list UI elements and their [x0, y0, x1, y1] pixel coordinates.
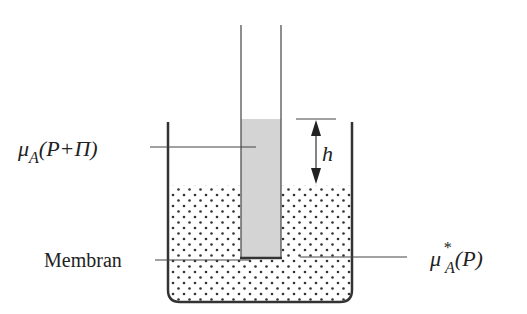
membrane-label: Membran — [44, 249, 122, 271]
arrow-down-icon — [311, 168, 321, 184]
inner-potential-label: μA(P+Π) — [17, 136, 98, 166]
arrow-up-icon — [311, 120, 321, 136]
osmosis-diagram: h μA(P+Π) Membran μ*A(P) — [0, 0, 527, 314]
solution-column — [241, 119, 281, 258]
height-label: h — [322, 141, 333, 166]
outer-potential-label: μ*A(P) — [429, 239, 483, 276]
